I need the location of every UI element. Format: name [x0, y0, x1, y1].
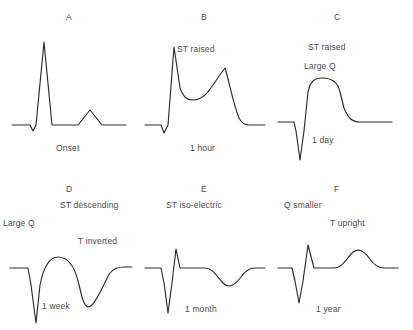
panel-a: A Onset [0, 0, 138, 165]
panel-d-time-label: 1 week [42, 301, 70, 311]
panel-c: C ST raised Large Q 1 day [268, 0, 406, 165]
panel-f: F Q smaller T upright 1 year [268, 165, 406, 330]
ecg-evolution-figure: A Onset B ST raised 1 hour C ST raised L… [0, 0, 413, 330]
panel-c-trace [278, 78, 392, 160]
panel-a-waveform [0, 0, 138, 165]
panel-d: D ST descending Large Q T inverted 1 wee… [0, 165, 138, 330]
panel-c-waveform [268, 0, 406, 165]
panel-b-trace [145, 47, 265, 133]
panel-b-waveform [135, 0, 273, 165]
panel-e: E ST iso-electric 1 month [135, 165, 273, 330]
panel-c-time-label: 1 day [312, 135, 334, 145]
panel-f-trace [278, 245, 398, 303]
panel-a-trace [12, 42, 126, 131]
panel-b: B ST raised 1 hour [135, 0, 273, 165]
panel-e-time-label: 1 month [185, 304, 217, 314]
panel-b-time-label: 1 hour [190, 143, 215, 153]
panel-d-trace [10, 257, 132, 323]
panel-f-time-label: 1 year [316, 304, 341, 314]
panel-a-time-label: Onset [56, 143, 79, 153]
